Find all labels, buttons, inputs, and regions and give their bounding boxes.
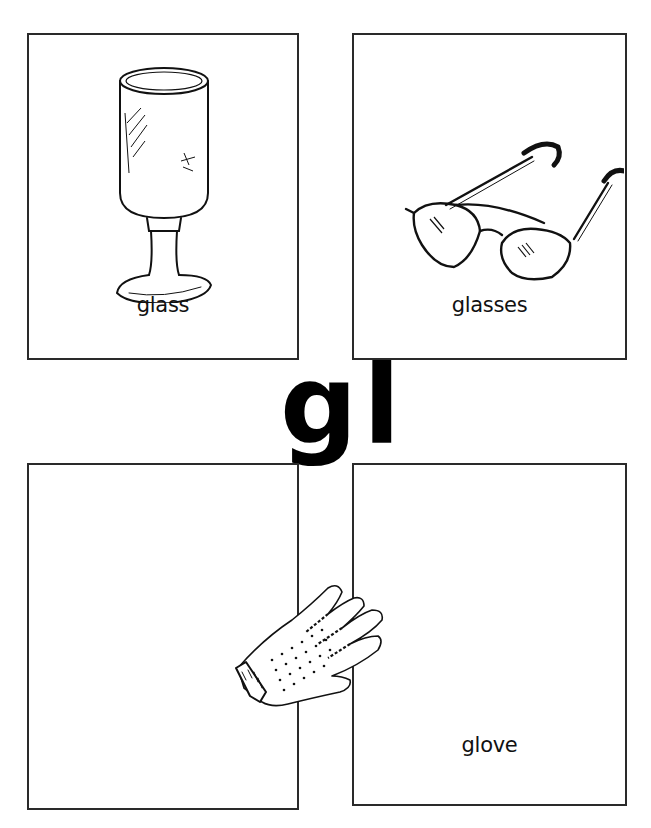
card-glasses: glasses (352, 33, 627, 360)
eyeglasses-icon (394, 135, 624, 285)
glove-icon (232, 580, 392, 710)
card-glove: glove (352, 463, 627, 806)
digraph-heading: gl (280, 352, 406, 460)
goblet-icon (89, 53, 239, 303)
card-label-glove: glove (354, 733, 625, 757)
card-glass: glass (27, 33, 299, 360)
card-label-glasses: glasses (354, 293, 625, 317)
card-label-glass: glass (29, 293, 297, 317)
